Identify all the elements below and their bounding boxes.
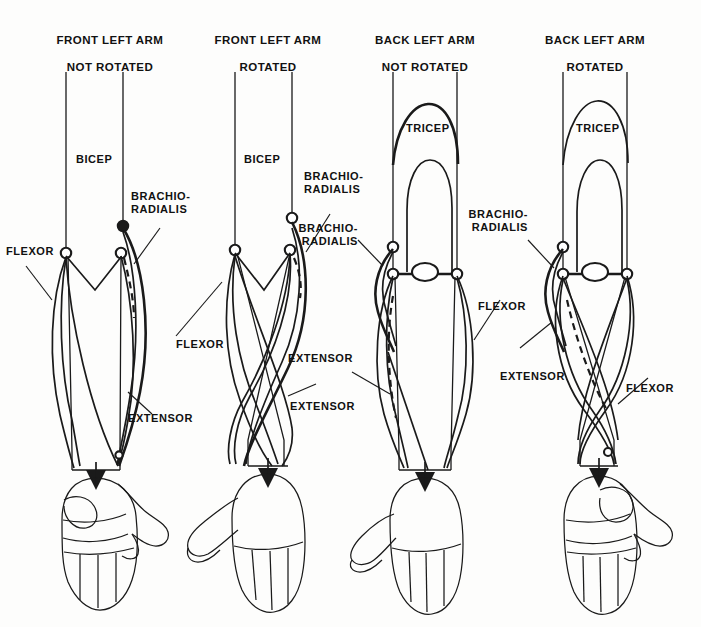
tendon-v <box>66 256 121 290</box>
flexor-muscle-inner <box>444 278 466 468</box>
extensor-muscle-2 <box>229 256 291 464</box>
finger-div-2 <box>270 551 272 610</box>
hand-outline <box>62 478 137 610</box>
extensor-hidden-dashed <box>124 258 134 318</box>
palm-ball <box>64 497 97 529</box>
leader-flexor <box>176 282 222 336</box>
label-extensor-p4: EXTENSOR <box>500 370 565 383</box>
label-flexor-p3: FLEXOR <box>478 300 526 313</box>
panel-title-back-rotated: BACK LEFT ARM ROTATED <box>515 20 675 74</box>
thumb-outline <box>118 484 168 546</box>
label-extensor-p3: EXTENSOR <box>288 352 353 365</box>
label-flexor-p4: FLEXOR <box>626 382 674 395</box>
panel-title-line-1: FRONT LEFT ARM <box>57 34 164 46</box>
finger-div-1 <box>409 552 411 602</box>
label-bicep-p2: BICEP <box>244 153 280 166</box>
panel-back-not-rotated <box>350 72 500 614</box>
label-flexor-p2: FLEXOR <box>176 338 224 351</box>
extensor-muscle-inner <box>560 280 616 464</box>
brachioradialis-muscle <box>545 249 564 352</box>
leader-brachioradialis <box>528 240 554 268</box>
finger-div-1 <box>252 550 256 600</box>
label-extensor-p2: EXTENSOR <box>290 400 355 413</box>
tendon-strap-left <box>563 278 618 440</box>
panel-title-line-2: NOT ROTATED <box>67 61 153 73</box>
wrist-pulley <box>604 448 612 456</box>
label-brachioradialis-p2: BRACHIO- RADIALIS <box>304 170 363 196</box>
panel-title-front-rotated: FRONT LEFT ARM ROTATED <box>188 20 348 74</box>
label-bicep-p1: BICEP <box>76 153 112 166</box>
olecranon <box>582 263 608 281</box>
hand-outline <box>232 474 305 612</box>
wrist-pulley <box>115 451 122 458</box>
label-brachioradialis-p3: BRACHIO- RADIALIS <box>280 222 358 248</box>
knuckle-line <box>234 542 303 549</box>
palm-crease-1 <box>63 514 126 522</box>
flexor-muscle-inner <box>578 280 630 464</box>
knuckle-line <box>567 548 636 554</box>
palm-crease-1 <box>566 514 630 522</box>
leader-brachioradialis <box>134 228 160 264</box>
label-flexor-p1: FLEXOR <box>6 245 54 258</box>
tricep-inner-head <box>407 160 452 272</box>
panel-title-line-1: BACK LEFT ARM <box>375 34 475 46</box>
panel-title-line-2: NOT ROTATED <box>382 61 468 73</box>
panel-title-back-not-rotated: BACK LEFT ARM NOT ROTATED <box>345 20 505 74</box>
olecranon <box>412 263 438 281</box>
panel-title-front-not-rotated: FRONT LEFT ARM NOT ROTATED <box>30 20 190 74</box>
panel-title-line-1: BACK LEFT ARM <box>545 34 645 46</box>
arm-anatomy-drawing <box>0 0 701 627</box>
diagram-page: FRONT LEFT ARM NOT ROTATED FRONT LEFT AR… <box>0 0 701 627</box>
finger-div-2 <box>600 557 601 612</box>
label-extensor-p1: EXTENSOR <box>128 412 193 425</box>
leader-extensor <box>288 384 316 396</box>
leader-brachioradialis <box>358 240 383 266</box>
thumb-outline <box>188 498 238 556</box>
panel-back-rotated <box>520 72 672 614</box>
extensor-hidden-dashed <box>567 300 608 412</box>
palm-crease-2 <box>566 536 632 543</box>
label-tricep-p4: TRICEP <box>576 122 620 135</box>
panel-title-line-2: ROTATED <box>239 61 296 73</box>
leader-extensor <box>520 322 552 348</box>
thumb-tip <box>350 560 382 572</box>
knuckle-line <box>64 548 134 554</box>
thumb-outline <box>351 514 396 565</box>
palm-crease-2 <box>63 534 128 541</box>
leader-extensor <box>352 372 390 394</box>
label-brachioradialis-p4: BRACHIO- RADIALIS <box>450 208 528 234</box>
label-tricep-p3: TRICEP <box>406 122 450 135</box>
tendon-v <box>235 253 290 290</box>
label-brachioradialis-p1: BRACHIO- RADIALIS <box>131 190 190 216</box>
panel-title-line-2: ROTATED <box>566 61 623 73</box>
leader-flexor <box>26 266 52 300</box>
finger-div-1 <box>583 556 584 602</box>
forearm-bone-right <box>120 256 121 470</box>
finger-div-2 <box>426 553 427 612</box>
panel-title-line-1: FRONT LEFT ARM <box>215 34 322 46</box>
tricep-inner-head <box>577 160 622 272</box>
knuckle-line <box>392 544 461 551</box>
